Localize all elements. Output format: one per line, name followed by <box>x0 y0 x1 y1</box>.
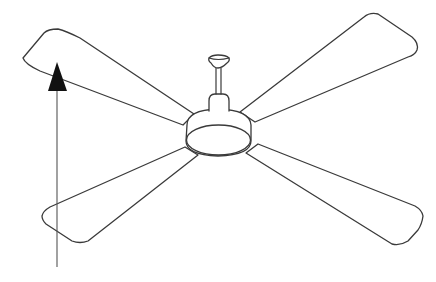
fan-blade-bottom-right <box>246 144 423 245</box>
downrod <box>216 68 221 94</box>
ceiling-fan-diagram <box>0 0 436 282</box>
fan-blade-top-left <box>23 29 194 125</box>
fan-blade-bottom-left <box>42 147 198 243</box>
fan-blade-top-right <box>240 13 417 122</box>
switch-cap <box>209 94 229 111</box>
motor-housing <box>186 109 251 156</box>
ceiling-canopy <box>209 55 230 68</box>
